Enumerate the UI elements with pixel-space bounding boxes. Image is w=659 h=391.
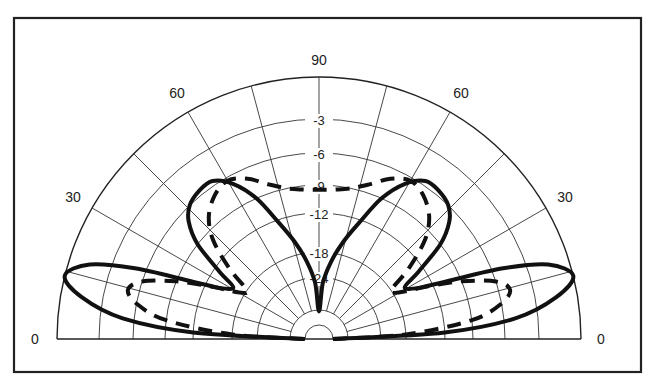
angle-label: 30 [557,189,573,205]
angle-label: 60 [453,85,469,101]
angle-label: 90 [311,52,327,68]
db-label: -6 [313,147,325,162]
grid-spoke [340,154,505,319]
grid-spoke [134,154,299,319]
angle-label: 0 [31,331,39,347]
angle-label: 0 [597,331,605,347]
db-label: -18 [310,246,329,261]
grid-ring [290,310,348,339]
polar-pattern-chart: -3-6-9-12-18-24 030609060300 [0,0,659,391]
db-label: -3 [313,113,325,128]
angle-label: 30 [65,189,81,205]
angle-label: 60 [169,85,185,101]
grid-ring [305,325,333,339]
db-label: -9 [313,179,325,194]
chart-frame [14,18,641,372]
db-label: -12 [310,207,329,222]
